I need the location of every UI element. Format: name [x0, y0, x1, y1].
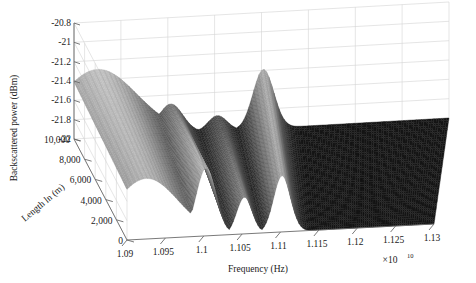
z-tick-label-0: -20.8 [51, 18, 71, 28]
x-axis-label: Frequency (Hz) [228, 264, 288, 275]
x-exponent-base: ×10 [383, 255, 398, 265]
x-tick-label-3: 1.105 [229, 243, 251, 253]
z-tick-label-5: -21.8 [51, 115, 71, 125]
figure-3d-surface-plot: Backscattered power (dBm) Frequency (Hz)… [0, 0, 476, 283]
x-tick-label-1: 1.095 [153, 247, 175, 257]
z-axis-label: Backscattered power (dBm) [9, 75, 20, 182]
x-tick-label-0: 1.09 [117, 249, 134, 259]
z-tick-label-3: -21.4 [51, 76, 71, 86]
x-tick-label-7: 1.125 [383, 235, 405, 245]
y-tick-label-2: 6,000 [70, 175, 92, 185]
z-tick-label-1: -21 [58, 37, 71, 47]
z-tick-label-2: -21.2 [51, 57, 71, 67]
y-tick-label-3: 4,000 [80, 196, 102, 206]
surface-plot-canvas: Backscattered power (dBm) Frequency (Hz)… [0, 0, 476, 283]
z-tick-label-6: -22 [58, 134, 71, 144]
x-tick-label-4: 1.11 [270, 241, 287, 251]
x-tick-label-8: 1.13 [424, 233, 441, 243]
y-tick-label-4: 2,000 [91, 216, 113, 226]
y-tick-label-5: 0 [118, 236, 123, 246]
z-tick-label-4: -21.6 [51, 95, 71, 105]
x-tick-label-2: 1.1 [196, 245, 208, 255]
x-tick-label-5: 1.115 [306, 239, 327, 249]
y-tick-label-1: 8,000 [59, 155, 81, 165]
x-exponent-power: 10 [407, 252, 414, 259]
x-tick-label-6: 1.12 [347, 237, 364, 247]
